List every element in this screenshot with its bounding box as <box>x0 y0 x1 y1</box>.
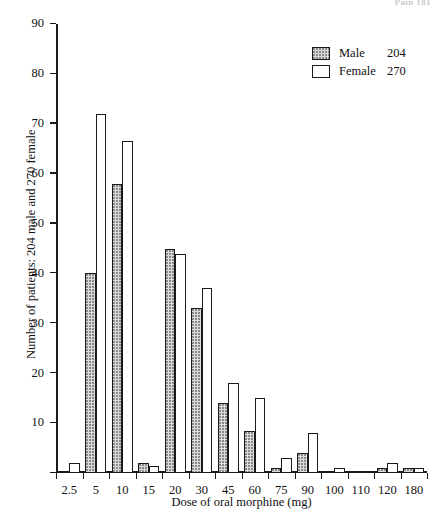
x-axis-tick-label: 10 <box>116 484 129 497</box>
y-axis-line <box>56 24 58 473</box>
x-axis-tick-label: 180 <box>404 484 423 497</box>
x-axis-tick <box>189 473 190 479</box>
x-axis-tick <box>268 473 269 479</box>
bar-female-60 <box>255 398 266 473</box>
x-axis-tick <box>215 473 216 479</box>
bar-female-180 <box>414 468 425 473</box>
y-axis-tick: 30 <box>50 322 56 323</box>
bar-female-2.5 <box>69 463 80 473</box>
histogram-figure: Pain 181 102030405060708090 2.5510152030… <box>0 0 437 519</box>
y-axis-tick: 20 <box>50 372 56 373</box>
bar-female-100 <box>334 468 345 473</box>
y-axis-tick-label: 80 <box>32 67 45 80</box>
bar-male-90 <box>297 453 308 473</box>
x-axis-tick <box>242 473 243 479</box>
bar-male-60 <box>244 431 255 473</box>
bar-female-5 <box>96 114 107 473</box>
bar-male-10 <box>112 184 123 473</box>
plot-area: 102030405060708090 2.5510152030456075901… <box>56 24 427 473</box>
x-axis-tick <box>321 473 322 479</box>
x-axis-title: Dose of oral morphine (mg) <box>56 496 427 509</box>
page-header: Pain 181 <box>395 0 431 7</box>
legend-label: Female <box>339 65 387 78</box>
y-axis-tick: 40 <box>50 272 56 273</box>
x-axis-tick <box>348 473 349 479</box>
bar-female-30 <box>202 288 213 473</box>
x-axis-tick <box>295 473 296 479</box>
y-axis-tick: 50 <box>50 222 56 223</box>
bar-male-15 <box>138 463 149 473</box>
x-axis-tick <box>83 473 84 479</box>
bar-female-15 <box>149 466 160 473</box>
x-axis-tick <box>109 473 110 479</box>
bar-male-20 <box>165 249 176 474</box>
bar-male-75 <box>271 468 282 473</box>
x-axis-tick-label: 110 <box>352 484 370 497</box>
y-axis-tick-label: 10 <box>32 416 45 429</box>
bar-male-180 <box>403 468 414 473</box>
y-axis-tick-label: 90 <box>32 17 45 30</box>
x-axis-tick <box>162 473 163 479</box>
y-axis-tick: 60 <box>50 172 56 173</box>
bar-female-90 <box>308 433 319 473</box>
y-axis-tick: 70 <box>50 122 56 123</box>
legend-count: 204 <box>387 47 406 60</box>
legend-item-female: Female270 <box>312 62 406 80</box>
legend-swatch-female <box>312 65 330 78</box>
bar-male-120 <box>377 468 388 473</box>
x-axis-tick-label: 2.5 <box>61 484 77 497</box>
x-axis-tick-label: 5 <box>93 484 99 497</box>
bar-female-75 <box>281 458 292 473</box>
y-axis-tick: 80 <box>50 73 56 74</box>
bar-male-5 <box>85 273 96 473</box>
x-axis-tick <box>401 473 402 479</box>
bar-female-10 <box>122 141 133 473</box>
y-axis-tick: 90 <box>50 23 56 24</box>
x-axis-tick <box>136 473 137 479</box>
bar-male-30 <box>191 308 202 473</box>
bar-male-45 <box>218 403 229 473</box>
x-axis-tick <box>374 473 375 479</box>
chart-legend: Male204Female270 <box>312 44 406 80</box>
legend-item-male: Male204 <box>312 44 406 62</box>
x-axis-tick <box>56 473 57 479</box>
bar-female-20 <box>175 254 186 474</box>
y-axis-tick: 10 <box>50 422 56 423</box>
x-axis-tick <box>427 473 428 479</box>
legend-swatch-male <box>312 47 330 60</box>
bar-female-45 <box>228 383 239 473</box>
x-axis-tick-label: 100 <box>325 484 344 497</box>
x-axis-tick-label: 120 <box>378 484 397 497</box>
y-axis-title: Number of patients: 204 male and 270 fem… <box>25 119 38 369</box>
legend-count: 270 <box>387 65 406 78</box>
bar-female-120 <box>387 463 398 473</box>
legend-label: Male <box>339 47 387 60</box>
x-axis-tick-label: 15 <box>143 484 156 497</box>
